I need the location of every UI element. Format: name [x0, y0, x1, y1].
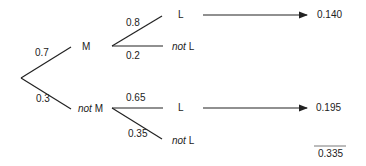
prob-M-notL: 0.2 — [126, 51, 140, 61]
prob-M-L: 0.8 — [126, 18, 140, 28]
result-notM-L: 0.195 — [316, 103, 341, 113]
node-M-notL: not L — [172, 42, 194, 52]
prob-root-M: 0.7 — [35, 48, 49, 58]
result-M-L: 0.140 — [317, 10, 342, 20]
total-result: 0.335 — [318, 149, 343, 159]
node-notM-L: L — [178, 103, 184, 113]
node-M-L: L — [178, 10, 184, 20]
prob-notM-L: 0.65 — [126, 93, 145, 103]
prob-root-notM: 0.3 — [36, 94, 50, 104]
node-M: M — [82, 42, 90, 52]
prob-notM-notL: 0.35 — [128, 129, 147, 139]
probability-tree-diagram: 0.7 0.3 M not M 0.8 0.2 0.65 0.35 L not … — [0, 0, 366, 166]
node-notM: not M — [78, 104, 103, 114]
node-notM-notL: not L — [172, 136, 194, 146]
